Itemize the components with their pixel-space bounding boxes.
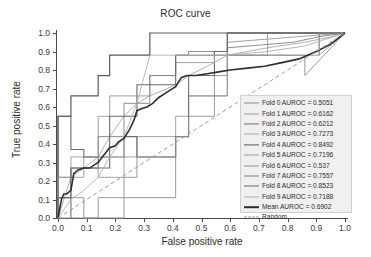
legend-color-swatch <box>244 150 259 160</box>
legend-item-label: Fold 5 AUROC = 0.7196 <box>262 150 333 160</box>
legend-item[interactable]: Fold 0 AUROC = 0.5051 <box>244 98 348 108</box>
legend-color-swatch <box>244 181 259 191</box>
legend-color-swatch <box>244 109 259 119</box>
legend-item[interactable]: Fold 3 AUROC = 0.7273 <box>244 129 348 139</box>
legend-color-swatch <box>244 212 259 222</box>
legend-item[interactable]: Fold 4 AUROC = 0.8492 <box>244 140 348 150</box>
legend-item[interactable]: Fold 5 AUROC = 0.7196 <box>244 150 348 160</box>
legend-item[interactable]: Fold 8 AUROC = 0.8523 <box>244 181 348 191</box>
legend-color-swatch <box>244 161 259 171</box>
legend-color-swatch <box>244 202 259 212</box>
legend-item-label: Fold 9 AUROC = 0.7188 <box>262 192 333 202</box>
legend-item-label: Fold 8 AUROC = 0.8523 <box>262 181 333 191</box>
legend-item-label: Fold 2 AUROC = 0.6212 <box>262 119 333 129</box>
y-axis-label: True positive rate <box>11 25 22 215</box>
legend-item[interactable]: Fold 7 AUROC = 0.7557 <box>244 171 348 181</box>
x-axis-label: False positive rate <box>56 236 348 247</box>
legend-item-label: Random <box>262 212 287 222</box>
legend-item-label: Fold 7 AUROC = 0.7557 <box>262 171 333 181</box>
legend-item-label: Fold 3 AUROC = 0.7273 <box>262 129 333 139</box>
legend-color-swatch <box>244 140 259 150</box>
legend-color-swatch <box>244 119 259 129</box>
legend-item[interactable]: Fold 1 AUROC = 0.6162 <box>244 108 348 118</box>
legend-item-label: Fold 6 AUROC = 0.537 <box>262 161 330 171</box>
legend-item-label: Fold 4 AUROC = 0.8492 <box>262 140 333 150</box>
legend-item[interactable]: Random <box>244 212 348 222</box>
legend-color-swatch <box>244 171 259 181</box>
legend-item[interactable]: Mean AUROC = 0.6902 <box>244 202 348 212</box>
legend-color-swatch <box>244 129 259 139</box>
legend-color-swatch <box>244 98 259 108</box>
legend-item-label: Fold 1 AUROC = 0.6162 <box>262 109 333 119</box>
legend-item[interactable]: Fold 9 AUROC = 0.7188 <box>244 192 348 202</box>
legend-item[interactable]: Fold 6 AUROC = 0.537 <box>244 160 348 170</box>
roc-curve-figure: ROC curve 0.00.10.20.30.40.50.60.70.80.9… <box>0 0 371 257</box>
chart-legend[interactable]: Fold 0 AUROC = 0.5051Fold 1 AUROC = 0.61… <box>240 95 352 213</box>
legend-item-label: Mean AUROC = 0.6902 <box>262 202 331 212</box>
legend-item[interactable]: Fold 2 AUROC = 0.6212 <box>244 119 348 129</box>
legend-item-label: Fold 0 AUROC = 0.5051 <box>262 98 333 108</box>
legend-color-swatch <box>244 192 259 202</box>
